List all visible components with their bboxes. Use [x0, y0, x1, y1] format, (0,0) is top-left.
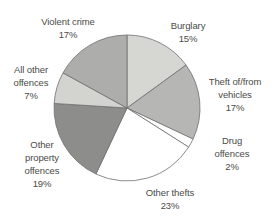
label-other-property: Other property offences 19% — [10, 138, 74, 190]
label-all-other-offences-pct: 7% — [1, 89, 61, 102]
label-violent-crime-pct: 17% — [18, 28, 118, 41]
label-burglary-text: Burglary — [143, 19, 233, 32]
label-theft-vehicles-text-1: Theft of/from — [195, 75, 274, 88]
label-other-property-pct: 19% — [10, 177, 74, 190]
label-drug-offences-pct: 2% — [192, 160, 272, 173]
label-all-other-offences-text-1: All other — [1, 63, 61, 76]
label-all-other-offences-text-2: offences — [1, 76, 61, 89]
crime-pie-figure: Violent crime 17% Burglary 15% Theft of/… — [0, 0, 274, 219]
label-other-thefts: Other thefts 23% — [115, 186, 225, 212]
label-all-other-offences: All other offences 7% — [1, 63, 61, 102]
label-theft-vehicles: Theft of/from vehicles 17% — [195, 75, 274, 114]
label-other-thefts-pct: 23% — [115, 199, 225, 212]
label-other-property-text-1: Other — [10, 138, 74, 151]
label-other-property-text-3: offences — [10, 164, 74, 177]
label-drug-offences: Drug offences 2% — [192, 134, 272, 173]
label-theft-vehicles-pct: 17% — [195, 101, 274, 114]
label-violent-crime-text: Violent crime — [18, 15, 118, 28]
label-theft-vehicles-text-2: vehicles — [195, 88, 274, 101]
label-other-property-text-2: property — [10, 151, 74, 164]
label-drug-offences-text-2: offences — [192, 147, 272, 160]
label-burglary-pct: 15% — [143, 32, 233, 45]
label-burglary: Burglary 15% — [143, 19, 233, 45]
label-other-thefts-text: Other thefts — [115, 186, 225, 199]
label-violent-crime: Violent crime 17% — [18, 15, 118, 41]
label-drug-offences-text-1: Drug — [192, 134, 272, 147]
